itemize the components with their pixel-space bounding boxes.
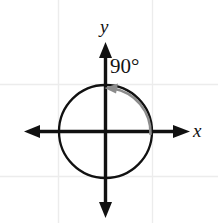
rotation-arc-path [113,89,151,135]
angle-label: 90° [110,56,139,77]
y-axis-arrowhead-down-icon [99,202,112,218]
x-axis-arrowhead-right-icon [173,125,190,138]
x-axis-label: x [193,121,201,140]
figure-canvas [0,0,218,223]
grid-lines [0,0,218,223]
unit-circle-figure: y x 90° [0,0,218,223]
y-axis-label: y [100,17,108,36]
x-axis-arrowhead-left-icon [24,125,40,138]
